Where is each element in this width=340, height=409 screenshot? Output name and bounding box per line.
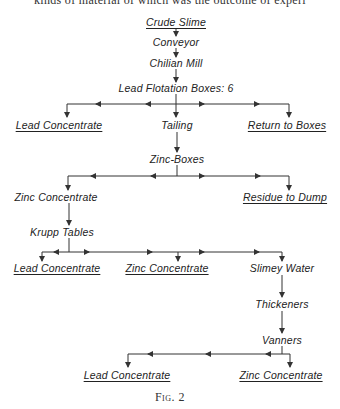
- node-residue-to-dump: Residue to Dump: [243, 191, 327, 203]
- node-slimey-water: Slimey Water: [250, 262, 315, 274]
- node-conveyor: Conveyor: [153, 36, 200, 48]
- node-zinc-concentrate-3: Zinc Concentrate: [239, 369, 322, 381]
- node-vanners: Vanners: [262, 334, 302, 346]
- node-lead-concentrate-2: Lead Concentrate: [14, 262, 101, 274]
- node-thickeners: Thickeners: [255, 298, 308, 310]
- node-tailing: Tailing: [161, 119, 192, 131]
- node-lead-flotation-boxes: Lead Flotation Boxes: 6: [119, 82, 234, 94]
- node-krupp-tables: Krupp Tables: [30, 226, 94, 238]
- figure-caption: Fig. 2: [155, 390, 185, 405]
- node-zinc-concentrate-2: Zinc Concentrate: [125, 262, 208, 274]
- node-zinc-boxes: Zinc-Boxes: [150, 153, 205, 165]
- node-lead-concentrate-1: Lead Concentrate: [16, 119, 103, 131]
- node-lead-concentrate-3: Lead Concentrate: [84, 369, 171, 381]
- node-chilian-mill: Chilian Mill: [149, 57, 202, 69]
- node-zinc-concentrate-1: Zinc Concentrate: [14, 191, 97, 203]
- node-return-to-boxes: Return to Boxes: [248, 119, 326, 131]
- node-crude-slime: Crude Slime: [146, 16, 206, 28]
